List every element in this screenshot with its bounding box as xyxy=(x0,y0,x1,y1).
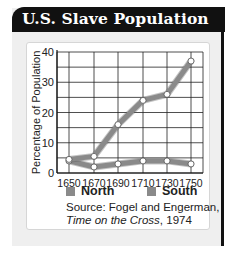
legend-north-label: North xyxy=(81,184,114,198)
data-point-marker xyxy=(140,158,146,164)
data-point-marker xyxy=(164,158,170,164)
data-point-marker xyxy=(66,156,72,162)
source-citation: Source: Fogel and Engerman, Time on the … xyxy=(66,201,219,227)
data-point-marker xyxy=(164,91,170,97)
data-point-marker xyxy=(115,161,121,167)
legend-south: South xyxy=(147,184,197,198)
south-swatch-icon xyxy=(147,187,156,196)
data-point-marker xyxy=(188,58,194,64)
data-point-marker xyxy=(140,97,146,103)
data-point-marker xyxy=(91,164,97,170)
legend-south-label: South xyxy=(162,184,197,198)
source-book: Time on the Cross xyxy=(66,214,160,226)
source-year: , 1974 xyxy=(160,214,192,226)
data-point-marker xyxy=(188,161,194,167)
source-line-2: Time on the Cross, 1974 xyxy=(66,214,219,227)
data-point-marker xyxy=(115,122,121,128)
y-tick-label: 20 xyxy=(42,107,54,119)
north-swatch-icon xyxy=(66,187,75,196)
legend-north: North xyxy=(66,184,114,198)
data-point-marker xyxy=(91,153,97,159)
source-line-1: Source: Fogel and Engerman, xyxy=(66,201,219,214)
y-tick-label: 10 xyxy=(42,137,54,149)
y-tick-label: 40 xyxy=(42,46,54,58)
series-south xyxy=(66,58,194,162)
y-tick-label: 0 xyxy=(48,167,54,179)
y-tick-label: 30 xyxy=(42,76,54,88)
y-axis-label: Percentage of Population xyxy=(30,51,42,175)
